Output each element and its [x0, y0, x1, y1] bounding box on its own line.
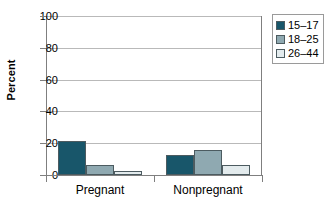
y-axis-tick-mark	[40, 16, 46, 17]
legend-item-label: 18–25	[288, 34, 319, 45]
x-axis-tick-label: Nonpregnant	[173, 183, 242, 197]
y-axis-tick-label: 40	[18, 105, 58, 117]
legend: 15–1718–2526–44	[272, 14, 324, 64]
y-axis-tick-mark	[40, 80, 46, 81]
plot-area	[46, 16, 262, 175]
x-axis-tick-mark	[154, 175, 155, 182]
x-axis-tick-label: Pregnant	[76, 183, 125, 197]
y-axis-tick-label: 80	[18, 42, 58, 54]
y-axis-tick-mark	[40, 48, 46, 49]
legend-item-label: 15–17	[288, 20, 319, 31]
legend-swatch-icon	[276, 21, 285, 30]
gridline	[47, 48, 261, 49]
x-axis-tick-mark	[262, 175, 263, 182]
gridline	[47, 80, 261, 81]
legend-item: 18–25	[276, 32, 319, 46]
y-axis-tick-mark	[40, 111, 46, 112]
bar-chart: Percent 020406080100 PregnantNonpregnant…	[0, 0, 324, 203]
y-axis-title: Percent	[5, 45, 17, 115]
legend-item: 26–44	[276, 46, 319, 60]
legend-swatch-icon	[276, 35, 285, 44]
legend-item-label: 26–44	[288, 48, 319, 59]
gridline	[47, 143, 261, 144]
legend-swatch-icon	[276, 49, 285, 58]
y-axis-tick-label: 60	[18, 74, 58, 86]
x-axis-tick-mark	[46, 175, 47, 182]
legend-item: 15–17	[276, 18, 319, 32]
gridline	[47, 16, 261, 17]
y-axis-tick-label: 20	[18, 137, 58, 149]
gridline	[47, 111, 261, 112]
y-axis-tick-label: 100	[18, 10, 58, 22]
y-axis-tick-mark	[40, 143, 46, 144]
